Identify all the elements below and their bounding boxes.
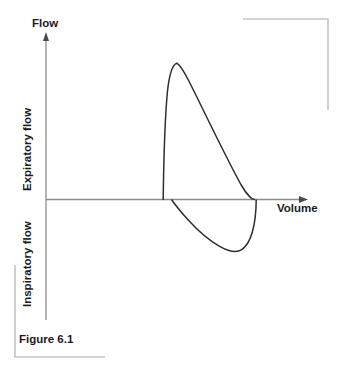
x-axis-title: Volume	[277, 203, 318, 215]
y-axis	[43, 32, 49, 320]
expiratory-limb-curve	[163, 63, 254, 199]
expiratory-flow-region-label: Expiratory flow	[22, 108, 34, 191]
inspiratory-flow-region-label: Inspiratory flow	[22, 221, 34, 307]
y-axis-arrow-head	[43, 32, 49, 41]
flow-volume-loop-chart	[0, 0, 346, 377]
figure-caption: Figure 6.1	[19, 334, 73, 346]
x-axis	[46, 196, 308, 203]
inspiratory-limb-curve	[172, 200, 256, 252]
figure-container: Flow Volume Expiratory flow Inspiratory …	[0, 0, 346, 377]
y-axis-title: Flow	[32, 18, 58, 30]
top-right-corner-bracket	[243, 19, 328, 110]
